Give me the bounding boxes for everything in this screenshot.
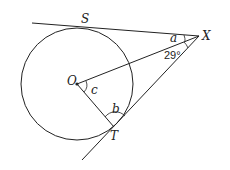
label-t: T [110,129,119,143]
label-s: S [81,12,89,26]
tangent-line-tx [82,36,199,160]
label-o: O [67,74,77,88]
label-angle-a: a [170,31,177,45]
angle-arc-29 [184,42,188,48]
segment-ox [77,36,199,84]
label-angle-c: c [91,83,98,97]
tangent-diagram: S X O T a 29° c b [0,0,230,170]
label-angle-b: b [112,102,120,116]
angle-arc-a [184,35,185,42]
label-x: X [201,29,211,43]
angle-arc-c [84,81,87,92]
label-angle-29: 29° [164,49,181,61]
